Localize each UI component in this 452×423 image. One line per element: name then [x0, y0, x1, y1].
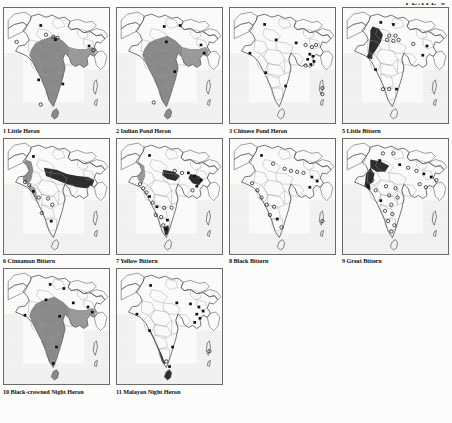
plate-sheet: PLATE 6 1 Little Heron 2 Indian Pond Her…	[0, 0, 452, 423]
map-caption: 9 Great Bittern	[342, 257, 449, 265]
map-panel-great-bittern[interactable]	[342, 138, 449, 255]
map-panel-little-heron[interactable]	[3, 7, 110, 124]
map-panel-yellow-bittern[interactable]	[116, 138, 223, 255]
map-cell[interactable]: 1 Little Heron	[3, 7, 110, 135]
map-grid: 1 Little Heron 2 Indian Pond Heron 3 Chi…	[3, 7, 449, 399]
map-cell[interactable]: 7 Yellow Bittern	[116, 138, 223, 266]
map-caption: 10 Black-crowned Night Heron	[3, 388, 110, 396]
map-panel-indian-pond-heron[interactable]	[116, 7, 223, 124]
map-panel-black-bittern[interactable]	[229, 138, 336, 255]
map-cell[interactable]: 5 Little Bittern	[342, 7, 449, 135]
map-panel-cinnamon-bittern[interactable]	[3, 138, 110, 255]
map-caption: 3 Chinese Pond Heron	[229, 127, 336, 135]
map-cell[interactable]: 2 Indian Pond Heron	[116, 7, 223, 135]
map-panel-little-bittern[interactable]	[342, 7, 449, 124]
map-cell[interactable]: 8 Black Bittern	[229, 138, 336, 266]
map-cell[interactable]: 9 Great Bittern	[342, 138, 449, 266]
map-row-1: 1 Little Heron 2 Indian Pond Heron 3 Chi…	[3, 7, 449, 135]
map-caption: 7 Yellow Bittern	[116, 257, 223, 265]
map-caption: 11 Malayan Night Heron	[116, 388, 223, 396]
map-cell[interactable]: 6 Cinnamon Bittern	[3, 138, 110, 266]
map-cell[interactable]: 3 Chinese Pond Heron	[229, 7, 336, 135]
map-panel-black-crowned-night-heron[interactable]	[3, 268, 110, 385]
map-caption: 6 Cinnamon Bittern	[3, 257, 110, 265]
map-caption: 5 Little Bittern	[342, 127, 449, 135]
map-cell[interactable]: 10 Black-crowned Night Heron	[3, 268, 110, 396]
map-caption: 2 Indian Pond Heron	[116, 127, 223, 135]
map-row-3: 10 Black-crowned Night Heron 11 Malayan …	[3, 268, 449, 396]
map-caption: 8 Black Bittern	[229, 257, 336, 265]
map-panel-chinese-pond-heron[interactable]	[229, 7, 336, 124]
map-cell[interactable]: 11 Malayan Night Heron	[116, 268, 223, 396]
map-caption: 1 Little Heron	[3, 127, 110, 135]
plate-header: PLATE 6	[406, 0, 446, 7]
map-panel-malayan-night-heron[interactable]	[116, 268, 223, 385]
map-row-2: 6 Cinnamon Bittern 7 Yellow Bittern 8 Bl…	[3, 138, 449, 266]
